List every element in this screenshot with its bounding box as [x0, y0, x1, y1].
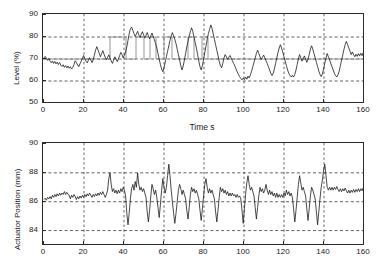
- x-tick-label: 100: [229, 105, 257, 114]
- x-tick-mark: [363, 99, 364, 103]
- x-tick-label: 120: [269, 247, 297, 256]
- y-tick-mark: [42, 201, 46, 202]
- x-tick-label: 80: [189, 105, 217, 114]
- x-tick-label: 20: [69, 105, 97, 114]
- figure-root: Level (%) Time s 50607080900204060801001…: [0, 0, 379, 270]
- y-tick-label: 90: [15, 9, 38, 18]
- x-tick-label: 40: [109, 105, 137, 114]
- x-tick-label: 80: [189, 247, 217, 256]
- y-tick-mark: [42, 14, 46, 15]
- x-tick-mark: [323, 241, 324, 245]
- x-tick-label: 140: [309, 247, 337, 256]
- y-tick-label: 86: [15, 196, 38, 205]
- x-tick-mark: [83, 99, 84, 103]
- x-tick-label: 0: [29, 247, 57, 256]
- x-tick-mark: [123, 241, 124, 245]
- x-tick-mark: [163, 241, 164, 245]
- y-tick-label: 88: [15, 167, 38, 176]
- y-tick-label: 60: [15, 75, 38, 84]
- y-tick-mark: [42, 80, 46, 81]
- actuator-y-axis-label: Actuator Position (mm): [13, 169, 22, 250]
- x-tick-mark: [283, 241, 284, 245]
- level-plot-area: [42, 13, 364, 103]
- y-tick-mark: [42, 172, 46, 173]
- x-tick-mark: [283, 99, 284, 103]
- x-tick-label: 0: [29, 105, 57, 114]
- y-tick-label: 90: [15, 138, 38, 147]
- level-x-axis-label: Time s: [152, 122, 252, 132]
- y-tick-mark: [42, 143, 46, 144]
- x-tick-label: 60: [149, 247, 177, 256]
- x-tick-mark: [323, 99, 324, 103]
- x-tick-label: 120: [269, 105, 297, 114]
- x-tick-label: 60: [149, 105, 177, 114]
- x-tick-label: 160: [349, 105, 377, 114]
- x-tick-mark: [163, 99, 164, 103]
- x-tick-mark: [43, 99, 44, 103]
- y-tick-label: 80: [15, 31, 38, 40]
- level-chart: Level (%) Time s 50607080900204060801001…: [0, 0, 379, 135]
- x-tick-mark: [243, 241, 244, 245]
- y-tick-mark: [42, 230, 46, 231]
- x-tick-mark: [43, 241, 44, 245]
- x-tick-label: 160: [349, 247, 377, 256]
- y-tick-label: 84: [15, 225, 38, 234]
- y-tick-mark: [42, 58, 46, 59]
- x-tick-label: 20: [69, 247, 97, 256]
- x-tick-mark: [123, 99, 124, 103]
- y-tick-mark: [42, 36, 46, 37]
- x-tick-label: 40: [109, 247, 137, 256]
- x-tick-mark: [243, 99, 244, 103]
- x-tick-mark: [203, 241, 204, 245]
- x-tick-label: 100: [229, 247, 257, 256]
- x-tick-label: 140: [309, 105, 337, 114]
- x-tick-mark: [83, 241, 84, 245]
- actuator-chart: Actuator Position (mm) 84868890020406080…: [0, 135, 379, 270]
- x-tick-mark: [203, 99, 204, 103]
- actuator-plot-area: [42, 142, 364, 245]
- y-tick-label: 70: [15, 53, 38, 62]
- x-tick-mark: [363, 241, 364, 245]
